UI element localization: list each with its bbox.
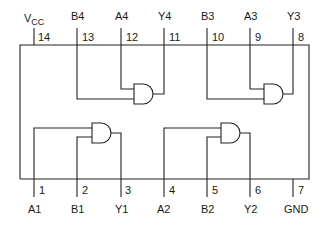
pin-label-a4: A4 [115, 10, 128, 22]
pin-label-a2: A2 [157, 203, 170, 215]
pin-number-2: 2 [82, 184, 88, 196]
pin-number-1: 1 [39, 184, 45, 196]
pin-label-b3: B3 [201, 10, 214, 22]
top-pin-11: Y4 11 [158, 10, 180, 45]
bottom-pin-5: 5 B2 [201, 179, 218, 215]
and-gate-2 [164, 123, 250, 179]
bottom-pin-2: 2 B1 [71, 179, 88, 215]
pin-label-y1: Y1 [115, 203, 128, 215]
pin-number-7: 7 [298, 184, 304, 196]
pin-label-a1: A1 [28, 203, 41, 215]
pin-label-b1: B1 [71, 203, 84, 215]
pin-number-3: 3 [125, 184, 131, 196]
bottom-pin-1: 1 A1 [28, 179, 45, 215]
top-pin-14: VCC 14 [24, 12, 50, 45]
pin-number-14: 14 [38, 31, 50, 43]
pin-number-6: 6 [255, 184, 261, 196]
and-gate-1-symbol [92, 123, 111, 143]
top-pin-12: A4 12 [115, 10, 138, 45]
pin-number-8: 8 [298, 31, 304, 43]
bottom-pin-6: 6 Y2 [244, 179, 261, 215]
top-pin-10: B3 10 [201, 10, 224, 45]
pin-number-11: 11 [169, 31, 180, 43]
and-gate-4-symbol [134, 84, 153, 104]
pin-number-12: 12 [126, 31, 138, 43]
bottom-pin-4: 4 A2 [157, 179, 175, 215]
and-gate-1 [34, 123, 121, 179]
pin-label-a3: A3 [244, 10, 257, 22]
pin-label-b4: B4 [71, 10, 84, 22]
pin-number-5: 5 [212, 184, 218, 196]
and-gate-3-symbol [264, 84, 283, 104]
pin-number-13: 13 [82, 31, 94, 43]
pin-label-b2: B2 [201, 203, 214, 215]
top-pin-13: B4 13 [71, 10, 94, 45]
and-gate-4 [77, 45, 164, 104]
and-gate-2-symbol [221, 123, 240, 143]
top-pin-9: A3 9 [244, 10, 261, 45]
pin-number-9: 9 [255, 31, 261, 43]
pin-label-y2: Y2 [244, 203, 257, 215]
pin-label-gnd: GND [284, 203, 309, 215]
top-pin-8: Y3 8 [287, 10, 304, 45]
bottom-pin-7: 7 GND [284, 179, 309, 215]
pin-number-10: 10 [212, 31, 224, 43]
pin-label-vcc: VCC [24, 12, 45, 27]
bottom-pin-3: 3 Y1 [115, 179, 131, 215]
pin-label-y4: Y4 [158, 10, 171, 22]
pin-number-4: 4 [169, 184, 175, 196]
and-gate-3 [207, 45, 293, 104]
ic-pinout-diagram: VCC 14 B4 13 A4 12 Y4 11 B3 10 A3 9 Y3 8… [0, 0, 326, 231]
pin-label-y3: Y3 [287, 10, 300, 22]
